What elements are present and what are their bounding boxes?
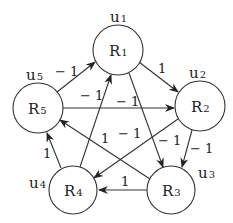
- weight-r3-r5: 1: [101, 131, 109, 146]
- weight-r4-r5: 1: [43, 146, 51, 161]
- u3-label: u3: [198, 164, 215, 182]
- weight-r4-r1: − 1: [80, 88, 103, 103]
- weight-r3-r4: 1: [121, 174, 129, 189]
- weight-r1-r3: − 1: [158, 133, 181, 148]
- node-r4: R4 u4: [29, 166, 97, 214]
- u5-label: u5: [26, 66, 43, 84]
- node-r1: R1 u1: [93, 8, 143, 75]
- weight-r5-r1: − 1: [55, 64, 78, 79]
- node-r2: R2 u2: [175, 64, 225, 131]
- weight-r1-r2: 1: [158, 61, 166, 76]
- signed-digraph: − 1 − 1 1 − 1 − 1 − 1 − 1 1 1 1 R1 u1 R2…: [0, 0, 233, 223]
- weight-r2-r3: − 1: [190, 141, 213, 156]
- edge-r1-r3: [129, 73, 163, 167]
- u4-label: u4: [29, 174, 46, 192]
- weight-r5-r2: − 1: [116, 94, 139, 109]
- weight-r2-r4: − 1: [118, 126, 141, 141]
- node-r3: R3 u3: [147, 164, 215, 214]
- u1-label: u1: [110, 8, 127, 26]
- u2-label: u2: [189, 64, 206, 82]
